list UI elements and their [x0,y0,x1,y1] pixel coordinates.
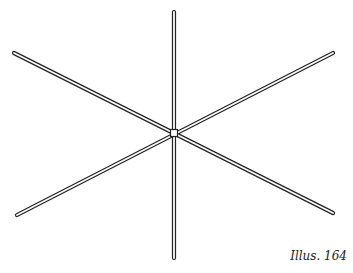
center-hub [171,130,178,137]
figure-caption: Illus. 164 [290,249,347,263]
illustration-crossed-rods [0,0,353,273]
